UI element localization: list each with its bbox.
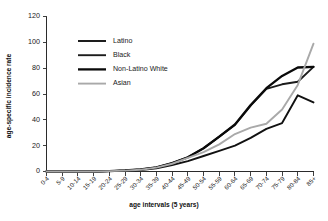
chart-figure: 020406080100120 0-45-910-1415-1920-2425-… bbox=[0, 0, 328, 221]
series-line-non-latino-white bbox=[47, 67, 314, 172]
x-tick-label: 45-49 bbox=[175, 174, 192, 191]
y-tick-label: 60 bbox=[32, 89, 40, 98]
x-tick-label: 40-44 bbox=[160, 174, 177, 191]
legend-label-asian: Asian bbox=[113, 79, 131, 87]
x-tick-label: 20-24 bbox=[97, 174, 114, 191]
y-tick-label: 40 bbox=[32, 115, 40, 124]
x-tick-label: 10-14 bbox=[65, 174, 82, 191]
x-axis-title: age intervals (5 years) bbox=[129, 201, 198, 209]
y-tick-label: 0 bbox=[36, 166, 40, 175]
y-tick-label: 20 bbox=[32, 141, 40, 150]
data-series-group bbox=[47, 44, 314, 172]
y-axis-title: age-specific incidence rate bbox=[5, 54, 13, 139]
x-tick-label: 25-29 bbox=[113, 174, 130, 191]
legend-label-black: Black bbox=[113, 51, 131, 59]
y-axis-tick-marks bbox=[43, 17, 47, 172]
y-tick-label: 100 bbox=[28, 37, 40, 46]
x-tick-label: 80-84 bbox=[285, 174, 302, 191]
x-tick-label: 55-59 bbox=[207, 174, 224, 191]
x-tick-label: 70-74 bbox=[254, 174, 271, 191]
x-tick-label: 5-9 bbox=[55, 174, 67, 186]
y-tick-label: 80 bbox=[32, 63, 40, 72]
x-tick-label: 30-34 bbox=[128, 174, 145, 191]
x-tick-label: 50-54 bbox=[191, 174, 208, 191]
line-chart-svg: 020406080100120 0-45-910-1415-1920-2425-… bbox=[0, 0, 328, 221]
legend: LatinoBlackNon-Latino WhiteAsian bbox=[78, 37, 168, 88]
y-axis-tick-labels: 020406080100120 bbox=[28, 11, 40, 175]
x-tick-label: 0-4 bbox=[39, 174, 51, 186]
x-tick-label: 75-79 bbox=[270, 174, 287, 191]
x-axis-tick-labels: 0-45-910-1415-1920-2425-2930-3435-3940-4… bbox=[39, 174, 318, 191]
series-line-asian bbox=[47, 44, 314, 172]
x-tick-label: 65-69 bbox=[238, 174, 255, 191]
x-tick-label: 85+ bbox=[305, 174, 318, 187]
x-tick-label: 35-39 bbox=[144, 174, 161, 191]
legend-label-non-latino-white: Non-Latino White bbox=[113, 65, 168, 73]
y-tick-label: 120 bbox=[28, 11, 40, 20]
legend-label-latino: Latino bbox=[113, 37, 132, 45]
x-tick-label: 15-19 bbox=[81, 174, 98, 191]
x-tick-label: 60-64 bbox=[223, 174, 240, 191]
